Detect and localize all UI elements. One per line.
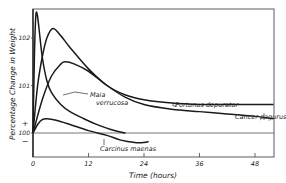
plus-sign-label: + bbox=[22, 119, 29, 128]
x-tick-label: 0 bbox=[31, 160, 35, 168]
label-leader-line bbox=[63, 92, 88, 95]
y-axis-label: Percentage Change in Weight bbox=[8, 27, 17, 140]
x-axis-label: Time (hours) bbox=[129, 171, 177, 180]
series-label: Maia bbox=[90, 91, 105, 99]
series-line-cancer-pagurus bbox=[33, 62, 274, 133]
series-line-maia-verrucosa bbox=[33, 12, 126, 133]
x-tick-label: 12 bbox=[84, 160, 92, 168]
series-label: Portunus depurator bbox=[175, 101, 239, 109]
y-tick-label: 100 bbox=[19, 129, 31, 136]
minus-sign-label: − bbox=[22, 137, 29, 146]
plot-border bbox=[33, 9, 274, 157]
series-labels: MaiaverrucosaPortunus depuratorCancer pa… bbox=[63, 91, 286, 153]
series-label: verrucosa bbox=[96, 99, 128, 107]
x-tick-label: 36 bbox=[195, 160, 203, 168]
series-label: Cancer pagurus bbox=[235, 113, 286, 121]
weight-change-chart: 012243648100101102+− MaiaverrucosaPortun… bbox=[0, 0, 286, 183]
x-tick-label: 48 bbox=[251, 160, 259, 168]
plot-frame bbox=[33, 9, 274, 157]
data-series bbox=[33, 12, 274, 143]
series-label: Carcinus maenas bbox=[100, 145, 157, 153]
x-tick-label: 24 bbox=[140, 160, 148, 168]
y-tick-label: 101 bbox=[19, 82, 30, 89]
y-tick-label: 102 bbox=[19, 34, 31, 41]
